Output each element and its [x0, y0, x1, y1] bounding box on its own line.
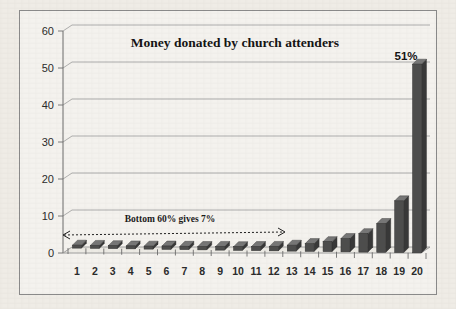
annotation-text: Bottom 60% gives 7%	[125, 214, 216, 224]
bar-chart-svg: 60 50 40 30 20 10 0 Money donated by chu…	[20, 11, 436, 294]
x-tick-label-18: 18	[375, 265, 387, 277]
y-tick-60: 60	[42, 25, 54, 37]
bar-front-2	[90, 245, 99, 248]
bar-front-7	[180, 246, 189, 249]
y-tick-10: 10	[42, 210, 54, 222]
x-tick-label-1: 1	[74, 265, 80, 277]
x-tick-label-2: 2	[92, 265, 98, 277]
bar-front-15	[323, 242, 332, 252]
y-tick-30: 30	[42, 136, 54, 148]
x-tick-label-13: 13	[286, 265, 298, 277]
bar-front-3	[108, 246, 117, 249]
x-tick-label-14: 14	[304, 265, 316, 277]
bar-20	[413, 59, 427, 253]
bar-front-16	[341, 239, 350, 252]
x-tick-label-12: 12	[268, 265, 280, 277]
bar-front-5	[144, 246, 153, 249]
y-tick-50: 50	[42, 62, 54, 74]
bar-17	[359, 229, 373, 253]
x-tick-label-3: 3	[110, 265, 116, 277]
x-tick-label-17: 17	[358, 265, 370, 277]
x-tick-label-9: 9	[217, 265, 223, 277]
bar-side-19	[404, 196, 409, 253]
y-tick-40: 40	[42, 99, 54, 111]
y-tick-20: 20	[42, 173, 54, 185]
x-tick-label-4: 4	[128, 265, 134, 277]
x-axis: 1234567891011121314151617181920	[68, 248, 426, 277]
bar-front-13	[287, 245, 296, 251]
x-tick-label-10: 10	[232, 265, 244, 277]
chart-plot-area: 60 50 40 30 20 10 0 Money donated by chu…	[20, 11, 436, 294]
x-tick-label-20: 20	[411, 265, 423, 277]
bar-front-10	[234, 247, 243, 251]
x-tick-label-8: 8	[199, 265, 205, 277]
bar-front-11	[251, 247, 260, 251]
bar-front-20	[413, 64, 422, 253]
bar-front-12	[269, 246, 278, 250]
bar-side-18	[386, 219, 391, 253]
bottom-60-annotation: Bottom 60% gives 7%	[63, 214, 285, 239]
bar-front-9	[216, 246, 225, 250]
x-tick-label-16: 16	[340, 265, 352, 277]
chart-title: Money donated by church attenders	[131, 35, 339, 50]
bar-16	[341, 234, 355, 252]
x-tick-label-15: 15	[322, 265, 334, 277]
x-tick-label-11: 11	[250, 265, 261, 277]
bar-front-17	[359, 234, 368, 253]
x-tick-label-6: 6	[164, 265, 170, 277]
y-tick-0: 0	[48, 247, 54, 259]
bar-front-1	[72, 245, 81, 248]
bar-front-18	[377, 224, 386, 253]
gridlines	[63, 25, 430, 216]
bar-front-6	[162, 246, 171, 249]
bar-front-4	[126, 246, 135, 249]
data-label-51: 51%	[394, 50, 417, 62]
bar-front-19	[395, 201, 404, 253]
x-tick-label-19: 19	[393, 265, 405, 277]
x-tick-label-7: 7	[181, 265, 187, 277]
x-tick-label-5: 5	[146, 265, 152, 277]
bar-front-8	[198, 247, 207, 250]
bar-19	[395, 196, 409, 253]
bar-18	[377, 219, 391, 253]
bar-front-14	[305, 244, 314, 252]
y-axis: 60 50 40 30 20 10 0	[42, 25, 63, 259]
chart-frame: 60 50 40 30 20 10 0 Money donated by chu…	[19, 10, 437, 295]
bar-side-20	[422, 59, 427, 253]
